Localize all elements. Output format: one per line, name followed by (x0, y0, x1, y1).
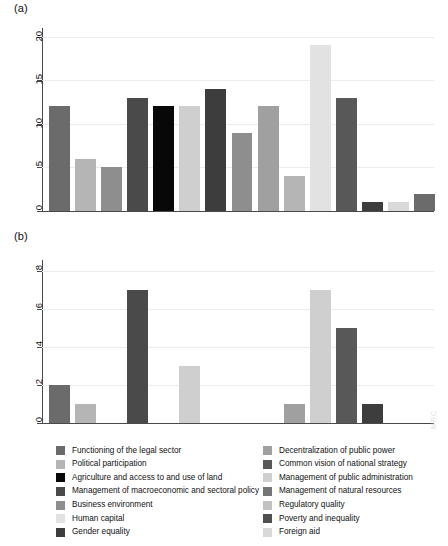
y-tick-mark (37, 423, 42, 424)
bar (75, 404, 96, 423)
legend-label: Management of macroeconomic and sectoral… (72, 487, 259, 495)
legend-swatch-icon (263, 514, 272, 523)
legend-item[interactable]: Gender equality (56, 526, 256, 540)
bar (336, 98, 357, 211)
legend-swatch-icon (56, 460, 65, 469)
x-axis-a (42, 211, 434, 212)
legend-label: Human capital (72, 515, 124, 523)
plot-area-b: 02468 (42, 260, 434, 424)
legend-item[interactable]: Agriculture and access to and use of lan… (56, 471, 256, 485)
bar (49, 106, 70, 211)
legend-label: Common vision of national strategy (279, 460, 407, 468)
bar (153, 106, 174, 211)
bar-series-b (42, 260, 434, 423)
legend-label: Agriculture and access to and use of lan… (72, 474, 222, 482)
legend-item[interactable]: Business environment (56, 498, 256, 512)
legend-label: Foreign aid (279, 528, 320, 536)
bar (232, 133, 253, 211)
legend-swatch-icon (263, 487, 272, 496)
bar (310, 290, 331, 423)
legend-item[interactable]: Management of public administration (263, 471, 448, 485)
legend-label: Gender equality (72, 528, 130, 536)
chart-panel-a: (a) 05101520 (0, 0, 448, 228)
bar (101, 167, 122, 211)
bar (414, 194, 435, 211)
legend-label: Business environment (72, 501, 153, 509)
bar (336, 328, 357, 423)
legend-item[interactable]: Functioning of the legal sector (56, 444, 256, 458)
bar (388, 202, 409, 211)
legend-item[interactable]: Decentralization of public power (263, 444, 448, 458)
legend-item[interactable]: Foreign aid (263, 526, 448, 540)
legend-item[interactable]: Common vision of national strategy (263, 458, 448, 472)
legend-item[interactable]: Management of natural resources (263, 485, 448, 499)
legend-item[interactable]: Regulatory quality (263, 498, 448, 512)
figure-root: (a) 05101520 (b) 02468 Functioning of th… (0, 0, 448, 546)
legend-item[interactable]: Human capital (56, 512, 256, 526)
bar (362, 404, 383, 423)
legend-label: Poverty and inequality (279, 515, 360, 523)
legend-item[interactable]: Poverty and inequality (263, 512, 448, 526)
legend-column-right: Decentralization of public powerCommon v… (263, 444, 448, 539)
legend-label: Functioning of the legal sector (72, 447, 181, 455)
bar-series-a (42, 28, 434, 211)
legend-swatch-icon (263, 446, 272, 455)
x-axis-b (42, 423, 434, 424)
bar (310, 45, 331, 211)
panel-b-label: (b) (14, 230, 28, 242)
watermark: MRC (430, 410, 437, 429)
bar (258, 106, 279, 211)
bar (205, 89, 226, 211)
legend-swatch-icon (56, 446, 65, 455)
legend-label: Management of natural resources (279, 487, 401, 495)
bar (127, 98, 148, 211)
bar (75, 159, 96, 211)
legend-column-left: Functioning of the legal sectorPolitical… (56, 444, 256, 539)
legend-swatch-icon (56, 487, 65, 496)
bar (284, 404, 305, 423)
bar (362, 202, 383, 211)
legend-item[interactable]: Political participation (56, 458, 256, 472)
chart-panel-b: (b) 02468 (0, 228, 448, 440)
legend-swatch-icon (56, 473, 65, 482)
legend-label: Management of public administration (279, 474, 413, 482)
legend-label: Regulatory quality (279, 501, 345, 509)
bar (179, 366, 200, 423)
bar (127, 290, 148, 423)
legend-swatch-icon (56, 514, 65, 523)
legend-item[interactable]: Management of macroeconomic and sectoral… (56, 485, 256, 499)
legend-swatch-icon (263, 501, 272, 510)
panel-a-label: (a) (14, 2, 28, 14)
bar (179, 106, 200, 211)
legend-swatch-icon (56, 501, 65, 510)
bar (284, 176, 305, 211)
legend-swatch-icon (263, 528, 272, 537)
legend-swatch-icon (263, 460, 272, 469)
legend-label: Decentralization of public power (279, 447, 395, 455)
legend-swatch-icon (263, 473, 272, 482)
bar (49, 385, 70, 423)
legend-label: Political participation (72, 460, 147, 468)
plot-area-a: 05101520 (42, 28, 434, 212)
legend-swatch-icon (56, 528, 65, 537)
y-tick-mark (37, 211, 42, 212)
legend: Functioning of the legal sectorPolitical… (0, 440, 448, 546)
